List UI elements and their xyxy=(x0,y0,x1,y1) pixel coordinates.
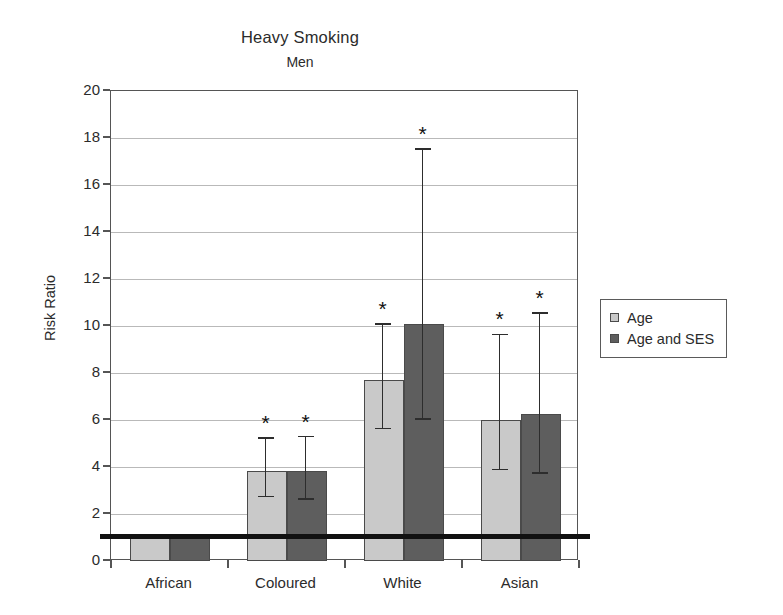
bar xyxy=(170,538,210,562)
legend-item-age-and-ses: Age and SES xyxy=(610,328,714,349)
significance-star: * xyxy=(373,298,393,319)
legend-item-age: Age xyxy=(610,307,714,328)
error-bar-line xyxy=(265,438,267,497)
gridline xyxy=(111,138,577,139)
legend-label-age: Age xyxy=(627,310,653,326)
y-tick-mark xyxy=(103,230,110,232)
y-tick-mark xyxy=(103,371,110,373)
y-tick-mark xyxy=(103,89,110,91)
legend-swatch-age-and-ses xyxy=(610,334,619,343)
significance-star: * xyxy=(256,412,276,433)
legend-swatch-age xyxy=(610,313,619,322)
error-bar-cap-upper xyxy=(375,323,391,325)
y-tick-label: 0 xyxy=(54,552,100,567)
significance-star: * xyxy=(296,411,316,432)
error-bar-line xyxy=(422,149,424,419)
bar xyxy=(130,538,170,562)
y-tick-label: 16 xyxy=(54,176,100,191)
error-bar-cap-upper xyxy=(298,436,314,438)
x-tick-mark xyxy=(461,560,463,568)
error-bar-line xyxy=(305,437,307,499)
chart-legend: Age Age and SES xyxy=(600,299,727,358)
reference-line-at-1 xyxy=(100,534,590,539)
y-tick-mark xyxy=(103,418,110,420)
error-bar-cap-upper xyxy=(258,437,274,439)
gridline xyxy=(111,185,577,186)
gridline xyxy=(111,373,577,374)
error-bar-line xyxy=(499,334,501,469)
bar xyxy=(404,324,444,561)
y-tick-label: 4 xyxy=(54,458,100,473)
y-tick-label: 8 xyxy=(54,364,100,379)
y-tick-mark xyxy=(103,324,110,326)
significance-star: * xyxy=(530,287,550,308)
gridline xyxy=(111,232,577,233)
error-bar-line xyxy=(382,324,384,429)
y-tick-label: 12 xyxy=(54,270,100,285)
legend-label-age-and-ses: Age and SES xyxy=(627,331,714,347)
chart-title: Heavy Smoking xyxy=(0,28,600,47)
chart-subtitle: Men xyxy=(0,54,600,70)
y-tick-mark xyxy=(103,277,110,279)
error-bar-cap-upper xyxy=(492,334,508,336)
y-tick-label: 2 xyxy=(54,505,100,520)
y-tick-label: 20 xyxy=(54,82,100,97)
y-tick-label: 6 xyxy=(54,411,100,426)
x-tick-mark xyxy=(227,560,229,568)
gridline xyxy=(111,279,577,280)
y-tick-label: 14 xyxy=(54,223,100,238)
error-bar-cap-upper xyxy=(532,312,548,314)
y-tick-mark xyxy=(103,559,110,561)
y-tick-mark xyxy=(103,183,110,185)
error-bar-cap-lower xyxy=(298,498,314,500)
y-tick-label: 18 xyxy=(54,129,100,144)
x-tick-mark xyxy=(344,560,346,568)
y-tick-mark xyxy=(103,512,110,514)
x-tick-mark xyxy=(110,560,112,568)
y-tick-label: 10 xyxy=(54,317,100,332)
error-bar-cap-lower xyxy=(532,472,548,474)
error-bar-cap-lower xyxy=(415,418,431,420)
y-tick-mark xyxy=(103,136,110,138)
x-tick-label: Asian xyxy=(450,574,590,591)
error-bar-cap-lower xyxy=(375,428,391,430)
bar xyxy=(481,420,521,561)
bar xyxy=(287,471,327,561)
bar xyxy=(247,471,287,561)
error-bar-line xyxy=(539,313,541,473)
error-bar-cap-upper xyxy=(415,148,431,150)
error-bar-cap-lower xyxy=(492,469,508,471)
significance-star: * xyxy=(413,123,433,144)
x-tick-mark xyxy=(578,560,580,568)
y-tick-mark xyxy=(103,465,110,467)
significance-star: * xyxy=(490,308,510,329)
error-bar-cap-lower xyxy=(258,496,274,498)
